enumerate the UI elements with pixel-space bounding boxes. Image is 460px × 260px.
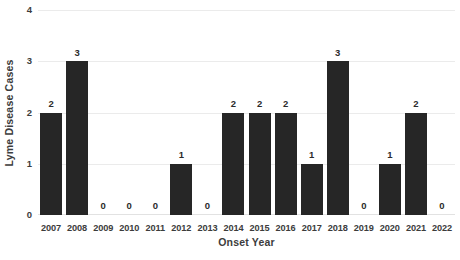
bar-value-label: 2 xyxy=(48,99,53,109)
bar-value-label: 2 xyxy=(257,99,262,109)
y-axis-title-text: Lyme Disease Cases xyxy=(3,59,15,166)
bar-slot: 2 xyxy=(38,10,64,215)
x-tick-label: 2016 xyxy=(273,220,299,236)
bar-slot: 0 xyxy=(351,10,377,215)
bar-series: 2 3 0 0 0 xyxy=(38,10,455,215)
x-tick-label: 2019 xyxy=(351,220,377,236)
bar-value-label: 2 xyxy=(413,99,418,109)
y-tick-label: 0 xyxy=(27,210,32,220)
x-tick-label: 2011 xyxy=(142,220,168,236)
x-tick-label: 2021 xyxy=(403,220,429,236)
bar-slot: 2 xyxy=(403,10,429,215)
bar[interactable]: 3 xyxy=(66,61,88,215)
x-tick-label: 2008 xyxy=(64,220,90,236)
x-tick-label: 2018 xyxy=(325,220,351,236)
x-tick-label: 2017 xyxy=(299,220,325,236)
bar-slot: 0 xyxy=(194,10,220,215)
bar-slot: 1 xyxy=(377,10,403,215)
x-tick-label: 2020 xyxy=(377,220,403,236)
bar-slot: 1 xyxy=(168,10,194,215)
bar-value-label: 3 xyxy=(74,48,79,58)
y-tick-label: 1 xyxy=(27,159,32,169)
plot-area: 2 3 0 0 0 xyxy=(38,10,455,215)
bar-value-label: 0 xyxy=(127,201,132,211)
x-tick-label: 2012 xyxy=(168,220,194,236)
bar-value-label: 0 xyxy=(439,201,444,211)
bar-value-label: 2 xyxy=(231,99,236,109)
x-axis-title: Onset Year xyxy=(38,236,455,248)
y-tick-label: 4 xyxy=(27,5,32,15)
bar-value-label: 0 xyxy=(153,201,158,211)
y-axis-ticks: 4 3 2 1 0 xyxy=(18,0,36,225)
x-tick-label: 2022 xyxy=(429,220,455,236)
bar-value-label: 0 xyxy=(101,201,106,211)
bar-slot: 0 xyxy=(116,10,142,215)
bar[interactable]: 1 xyxy=(170,164,192,215)
x-tick-label: 2015 xyxy=(247,220,273,236)
bar-value-label: 1 xyxy=(179,150,184,160)
y-tick-label: 3 xyxy=(27,57,32,67)
bar-slot: 2 xyxy=(273,10,299,215)
bar-slot: 0 xyxy=(90,10,116,215)
y-axis-title: Lyme Disease Cases xyxy=(0,0,18,225)
x-tick-label: 2007 xyxy=(38,220,64,236)
bar-value-label: 1 xyxy=(387,150,392,160)
bar[interactable]: 1 xyxy=(379,164,401,215)
y-tick-label: 2 xyxy=(27,108,32,118)
x-tick-label: 2014 xyxy=(220,220,246,236)
bar-slot: 0 xyxy=(142,10,168,215)
bar[interactable]: 2 xyxy=(222,113,244,216)
x-tick-label: 2009 xyxy=(90,220,116,236)
bar-value-label: 0 xyxy=(361,201,366,211)
bar-slot: 0 xyxy=(429,10,455,215)
bar[interactable]: 2 xyxy=(275,113,297,216)
bar-chart: Lyme Disease Cases 4 3 2 1 0 2 3 xyxy=(0,0,460,260)
bar[interactable]: 2 xyxy=(405,113,427,216)
bar-slot: 1 xyxy=(299,10,325,215)
x-tick-label: 2013 xyxy=(194,220,220,236)
bar-slot: 3 xyxy=(64,10,90,215)
bar[interactable]: 1 xyxy=(301,164,323,215)
bar-slot: 2 xyxy=(220,10,246,215)
bar-value-label: 3 xyxy=(335,48,340,58)
bar[interactable]: 2 xyxy=(40,113,62,216)
bar-value-label: 1 xyxy=(309,150,314,160)
x-axis-ticks: 2007 2008 2009 2010 2011 2012 2013 2014 … xyxy=(38,220,455,236)
bar[interactable]: 2 xyxy=(249,113,271,216)
bar-slot: 3 xyxy=(325,10,351,215)
x-tick-label: 2010 xyxy=(116,220,142,236)
bar[interactable]: 3 xyxy=(327,61,349,215)
bar-slot: 2 xyxy=(247,10,273,215)
bar-value-label: 0 xyxy=(205,201,210,211)
bar-value-label: 2 xyxy=(283,99,288,109)
